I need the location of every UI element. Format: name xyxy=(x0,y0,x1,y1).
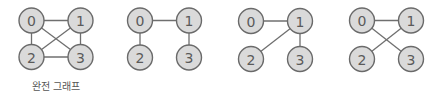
node-label: 0 xyxy=(136,13,145,29)
nodes-layer: 0123012301230123 xyxy=(19,8,424,72)
node-label: 2 xyxy=(27,50,36,66)
node-label: 2 xyxy=(136,50,145,66)
node-label: 0 xyxy=(27,13,36,29)
node-label: 1 xyxy=(185,13,194,29)
node-label: 3 xyxy=(296,52,305,68)
node-label: 2 xyxy=(358,52,367,68)
graph-node: 2 xyxy=(19,45,44,70)
graph-node: 2 xyxy=(128,45,153,70)
graph-node: 1 xyxy=(399,8,424,33)
graph-node: 0 xyxy=(239,9,264,34)
graph-node: 3 xyxy=(288,47,313,72)
graph-node: 3 xyxy=(399,47,424,72)
graph-node: 2 xyxy=(350,47,375,72)
node-label: 0 xyxy=(247,14,256,30)
graph-node: 3 xyxy=(177,45,202,70)
node-label: 3 xyxy=(185,50,194,66)
graph-node: 1 xyxy=(288,9,313,34)
graph-diagram-canvas: 0123012301230123 완전 그래프 xyxy=(0,0,436,98)
graph-node: 0 xyxy=(128,8,153,33)
node-label: 1 xyxy=(296,14,305,30)
graph-node: 2 xyxy=(239,47,264,72)
graph-node: 1 xyxy=(68,8,93,33)
node-label: 1 xyxy=(407,13,416,29)
node-label: 1 xyxy=(76,13,85,29)
graph-node: 3 xyxy=(68,45,93,70)
graph-1-nodes: 0123 xyxy=(128,8,202,70)
node-label: 3 xyxy=(76,50,85,66)
complete-graph-caption: 완전 그래프 xyxy=(16,78,96,93)
node-label: 3 xyxy=(407,52,416,68)
graph-node: 0 xyxy=(19,8,44,33)
graph-node: 0 xyxy=(350,8,375,33)
node-label: 2 xyxy=(247,52,256,68)
node-label: 0 xyxy=(358,13,367,29)
graph-node: 1 xyxy=(177,8,202,33)
